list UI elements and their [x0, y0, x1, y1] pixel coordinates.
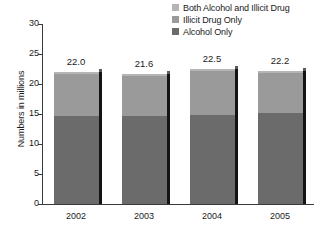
bar-segment[interactable]	[190, 71, 235, 115]
y-tick-label: 30	[17, 18, 39, 29]
bar-top-bevel	[303, 68, 306, 71]
y-tick-label: 20	[17, 78, 39, 89]
bar-segment[interactable]	[258, 113, 303, 204]
bar-top-bevel	[235, 66, 238, 69]
y-tick-label: 5	[17, 168, 39, 179]
chart-figure: Both Alcohol and Illicit Drug Illicit Dr…	[0, 0, 323, 229]
bar-segment[interactable]	[190, 115, 235, 204]
legend-swatch-illicit	[172, 16, 179, 23]
legend-swatch-both	[172, 4, 179, 11]
bar-group: 22.52004	[190, 23, 235, 204]
x-tick-label: 2004	[202, 211, 222, 222]
y-tick-label: 15	[17, 108, 39, 119]
x-tick-label: 2002	[66, 211, 86, 222]
y-axis-line	[42, 24, 43, 205]
y-tick-label: 10	[17, 138, 39, 149]
stacked-bar[interactable]	[258, 71, 303, 204]
bar-group: 21.62003	[122, 23, 167, 204]
bar-top-bevel	[99, 69, 102, 72]
bar-value-label: 22.0	[67, 56, 86, 67]
bar-segment[interactable]	[258, 73, 303, 114]
y-tick-label: 25	[17, 48, 39, 59]
bar-value-label: 22.2	[271, 55, 290, 66]
bar-side-shadow	[167, 74, 170, 204]
legend-label-both: Both Alcohol and Illicit Drug	[183, 3, 290, 13]
x-tick-label: 2003	[134, 211, 154, 222]
bar-side-shadow	[99, 72, 102, 204]
plot-area: 051015202530 22.0200221.6200322.5200422.…	[42, 24, 314, 205]
bar-top-bevel	[167, 71, 170, 74]
bar-group: 22.22005	[258, 23, 303, 204]
legend-item-both: Both Alcohol and Illicit Drug	[172, 2, 323, 13]
bar-side-shadow	[303, 71, 306, 204]
bar-segment[interactable]	[122, 76, 167, 116]
stacked-bar[interactable]	[54, 72, 99, 204]
bar-segment[interactable]	[54, 116, 99, 204]
bar-value-label: 21.6	[135, 58, 154, 69]
bar-value-label: 22.5	[203, 53, 222, 64]
stacked-bar[interactable]	[190, 69, 235, 204]
x-axis-line	[42, 204, 314, 205]
bar-side-shadow	[235, 69, 238, 204]
stacked-bar[interactable]	[122, 74, 167, 204]
y-tick-label: 0	[17, 198, 39, 209]
bar-segment[interactable]	[54, 74, 99, 117]
bar-segment[interactable]	[122, 116, 167, 204]
x-tick-label: 2005	[270, 211, 290, 222]
bar-group: 22.02002	[54, 23, 99, 204]
